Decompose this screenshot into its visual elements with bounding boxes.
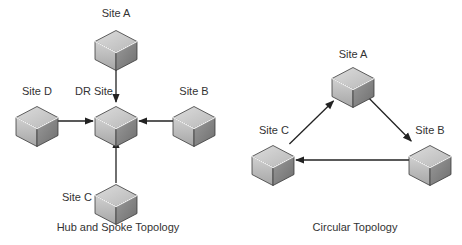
hub-label-site-a: Site A xyxy=(102,7,131,19)
circ-label-site-b: Site B xyxy=(415,124,444,136)
circ-node-a-server-icon xyxy=(332,68,374,108)
circ-edges xyxy=(289,98,411,160)
circ-edge-a-to-b xyxy=(369,98,411,141)
hub-node-b-server-icon xyxy=(173,107,215,147)
circ-label-site-c: Site C xyxy=(259,124,289,136)
hub-caption: Hub and Spoke Topology xyxy=(57,221,180,233)
hub-label-site-b: Site B xyxy=(179,85,208,97)
circ-caption: Circular Topology xyxy=(313,221,398,233)
circ-label-site-a: Site A xyxy=(339,48,368,60)
circ-node-b-server-icon xyxy=(409,146,451,186)
circular-diagram: Site A Site B Site C Circular Topology xyxy=(252,48,451,233)
hub-nodes xyxy=(16,31,215,225)
hub-and-spoke-diagram: Site A DR Site Site D Site B Site C Hub … xyxy=(16,7,215,233)
hub-node-d-server-icon xyxy=(16,107,58,147)
hub-label-site-d: Site D xyxy=(22,85,52,97)
hub-label-dr-site: DR Site xyxy=(75,85,113,97)
hub-node-c-server-icon xyxy=(95,185,137,225)
hub-node-a-server-icon xyxy=(95,31,137,71)
circ-edge-c-to-a xyxy=(289,101,333,144)
topology-diagrams: Site A DR Site Site D Site B Site C Hub … xyxy=(0,0,462,245)
hub-node-dr-server-icon xyxy=(95,107,137,147)
hub-label-site-c: Site C xyxy=(62,191,92,203)
circ-node-c-server-icon xyxy=(252,146,294,186)
